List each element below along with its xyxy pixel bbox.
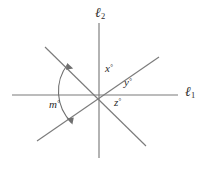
- line-label-l2: ℓ2: [95, 6, 105, 20]
- angle-label-y: y°: [124, 77, 132, 88]
- arc-arrowhead-lower-icon: [67, 118, 74, 125]
- angle-label-m-degree: °: [57, 99, 60, 107]
- line-label-l1-glyph: ℓ: [185, 84, 191, 99]
- angle-label-x-degree: °: [110, 63, 113, 71]
- angle-arc-m: [58, 65, 71, 123]
- line-label-l1: ℓ1: [185, 85, 195, 99]
- arc-arrowhead-upper-icon: [66, 63, 73, 70]
- angle-label-m-variable: m: [49, 98, 57, 110]
- line-label-l2-glyph: ℓ: [95, 5, 101, 20]
- angle-label-z: z°: [114, 97, 121, 108]
- line-diagonal-northwest-southeast: [45, 47, 146, 146]
- angle-label-z-variable: z: [114, 96, 118, 108]
- line-label-l2-subscript: 2: [101, 11, 105, 21]
- angle-label-z-degree: °: [119, 97, 122, 105]
- geometry-figure: ℓ2 ℓ1 x° y° z° m°: [0, 0, 208, 170]
- line-label-l1-subscript: 1: [191, 90, 195, 100]
- angle-label-m: m°: [49, 99, 60, 110]
- angle-label-y-degree: °: [129, 77, 132, 85]
- angle-label-x: x°: [105, 63, 113, 74]
- figure-canvas: [0, 0, 208, 170]
